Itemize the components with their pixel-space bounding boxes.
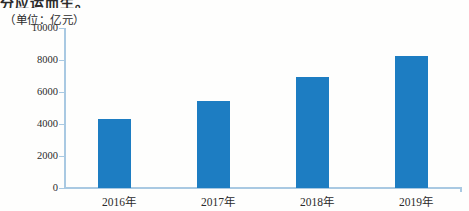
x-tick-label: 2018年 [287,193,347,209]
y-tick-mark [59,92,64,93]
x-axis-end-tick [460,187,462,192]
y-tick-label: 4000 [16,119,58,129]
y-tick-mark [59,28,64,29]
clipped-paragraph-text-content: 分应运而生。 [0,0,120,8]
y-tick-mark [59,124,64,125]
clipped-paragraph-text: 分应运而生。 [0,0,120,8]
y-tick-label: 8000 [16,55,58,65]
scanned-bar-chart-page: 分应运而生。 （单位：亿元） 0200040006000800010000201… [0,0,469,211]
bar-chart-plot-area: 02000400060008000100002016年2017年2018年201… [64,28,462,188]
y-tick-label: 2000 [16,151,58,161]
y-tick-mark [59,60,64,61]
bar-2016年 [98,119,131,188]
y-axis-line [64,28,66,188]
x-tick-label: 2016年 [89,193,149,209]
x-tick-label: 2017年 [188,193,248,209]
bar-2019年 [395,56,428,187]
y-tick-label: 6000 [16,87,58,97]
x-tick-label: 2019年 [386,193,446,209]
y-tick-label: 10000 [16,23,58,33]
bar-2017年 [197,101,230,187]
y-tick-mark [59,156,64,157]
y-tick-label: 0 [16,183,58,193]
y-tick-mark [59,188,64,189]
bar-2018年 [296,77,329,187]
